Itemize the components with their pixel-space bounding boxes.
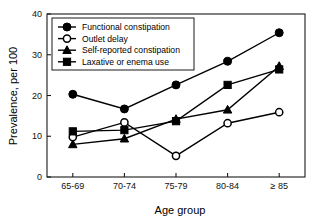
data-point (276, 109, 283, 116)
legend-label: Laxative or enema use (82, 57, 169, 67)
legend-label: Outlet delay (82, 34, 129, 44)
series-path (73, 66, 279, 144)
x-axis-ticks: 65-6970-7475-7980-84≥ 85 (61, 173, 288, 191)
legend-marker (63, 35, 70, 42)
series-4 (69, 66, 283, 135)
y-axis-title: Prevalence, per 100 (7, 47, 19, 145)
data-point (224, 57, 232, 65)
x-tick-label: 80-84 (216, 181, 239, 191)
data-point (172, 118, 179, 125)
data-point (120, 105, 128, 113)
y-tick-label: 40 (32, 9, 42, 19)
x-axis-title: Age group (155, 204, 206, 216)
x-tick-label: 75-79 (164, 181, 187, 191)
data-point (121, 119, 128, 126)
y-tick-label: 0 (37, 172, 42, 182)
data-point (172, 152, 179, 159)
x-tick-label: ≥ 85 (270, 181, 287, 191)
data-point (69, 90, 77, 98)
legend-marker (63, 23, 71, 31)
y-tick-label: 10 (32, 131, 42, 141)
y-tick-label: 20 (32, 91, 42, 101)
y-axis-ticks: 010203040 (32, 9, 51, 182)
legend-item[interactable]: Outlet delay (58, 34, 129, 44)
data-point (121, 127, 128, 134)
data-point (276, 66, 283, 73)
chart-figure: 010203040 65-6970-7475-7980-84≥ 85 Funct… (0, 0, 319, 223)
legend-marker (63, 58, 70, 65)
data-point (224, 120, 231, 127)
y-tick-label: 30 (32, 50, 42, 60)
series-3 (69, 62, 284, 148)
chart-legend: Functional constipationOutlet delaySelf-… (52, 18, 194, 70)
prevalence-by-age-line-chart: 010203040 65-6970-7475-7980-84≥ 85 Funct… (0, 0, 319, 223)
data-point (275, 29, 283, 37)
legend-label: Functional constipation (82, 22, 170, 32)
data-point (172, 81, 180, 89)
legend-label: Self-reported constipation (82, 45, 180, 55)
data-point (224, 81, 231, 88)
data-point (69, 128, 76, 135)
x-tick-label: 65-69 (61, 181, 84, 191)
x-tick-label: 70-74 (113, 181, 136, 191)
